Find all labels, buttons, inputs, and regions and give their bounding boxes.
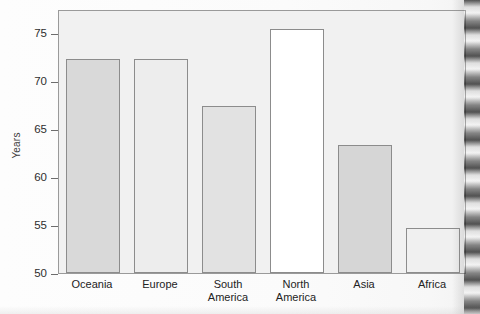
x-axis-label-north-america: NorthAmerica xyxy=(262,278,330,303)
y-axis-tick-label: 50 xyxy=(12,268,47,280)
y-axis-tick-label: 65 xyxy=(12,124,47,136)
scan-gutter-fade xyxy=(452,0,464,314)
bar-south-america xyxy=(202,106,257,273)
y-axis-tick xyxy=(51,82,58,83)
x-axis-label-asia: Asia xyxy=(330,278,398,291)
plot-area xyxy=(58,10,466,274)
y-axis-tick xyxy=(51,34,58,35)
scan-gutter-shadow xyxy=(464,0,480,314)
y-axis-tick-label: 60 xyxy=(12,172,47,184)
x-axis-label-line: North xyxy=(262,278,330,291)
y-axis-tick xyxy=(51,130,58,131)
y-axis-tick xyxy=(51,226,58,227)
scan-bottom-smudge xyxy=(0,306,480,314)
bar-chart-figure: Years 505560657075 OceaniaEuropeSouthAme… xyxy=(0,0,480,314)
bar-asia xyxy=(338,145,393,273)
x-axis-label-line: Oceania xyxy=(58,278,126,291)
x-axis-label-line: South xyxy=(194,278,262,291)
x-axis-label-line: America xyxy=(262,291,330,304)
x-axis-label-south-america: SouthAmerica xyxy=(194,278,262,303)
x-axis-label-oceania: Oceania xyxy=(58,278,126,291)
x-axis-label-europe: Europe xyxy=(126,278,194,291)
bars-container xyxy=(59,11,465,273)
bar-north-america xyxy=(270,29,325,273)
x-axis-label-line: America xyxy=(194,291,262,304)
y-axis-tick xyxy=(51,178,58,179)
x-axis-label-line: Europe xyxy=(126,278,194,291)
y-axis-tick-label: 75 xyxy=(12,28,47,40)
bar-europe xyxy=(134,59,189,273)
bar-oceania xyxy=(66,59,121,273)
x-axis-label-line: Asia xyxy=(330,278,398,291)
y-axis-tick xyxy=(51,274,58,275)
y-axis-tick-label: 70 xyxy=(12,76,47,88)
y-axis-tick-label: 55 xyxy=(12,220,47,232)
